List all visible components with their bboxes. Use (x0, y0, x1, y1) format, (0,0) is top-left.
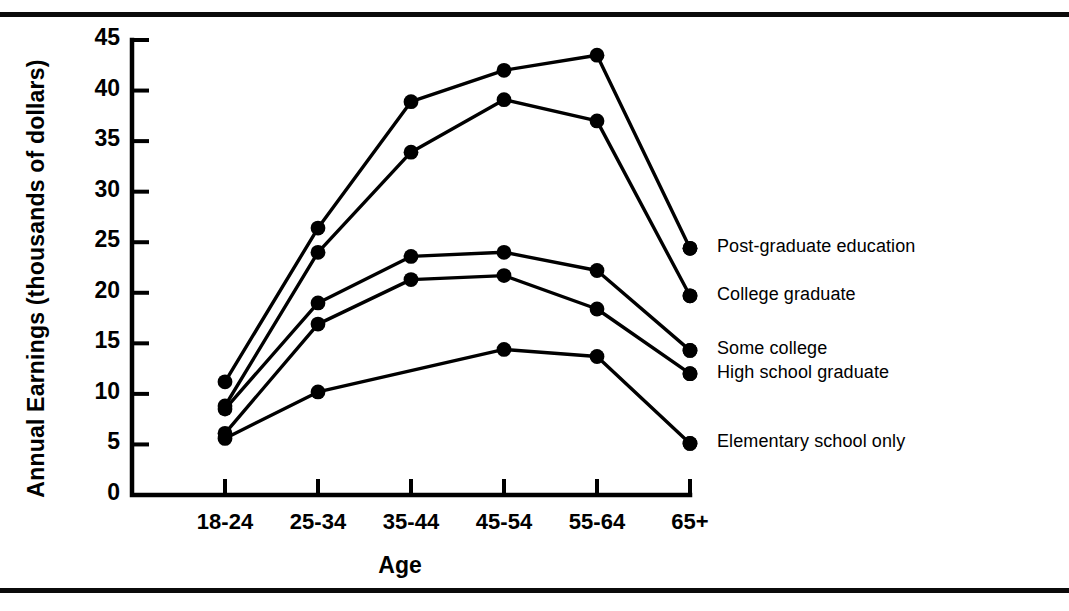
y-tick-label: 30 (36, 176, 120, 203)
series-label: College graduate (717, 284, 856, 305)
x-tick-label: 65+ (630, 509, 750, 535)
series-label: High school graduate (717, 362, 889, 383)
bottom-rule (0, 588, 1069, 593)
y-tick-label: 0 (36, 479, 120, 506)
plot-area: Annual Earnings (thousands of dollars) A… (0, 17, 1069, 588)
line-chart-svg (0, 17, 1069, 588)
x-axis-title: Age (330, 552, 470, 579)
series-label: Post-graduate education (717, 236, 915, 257)
data-series (218, 48, 698, 451)
leader-lines (683, 241, 698, 451)
series-label: Elementary school only (717, 431, 905, 452)
figure: Annual Earnings (thousands of dollars) A… (0, 0, 1069, 611)
y-tick-label: 10 (36, 378, 120, 405)
y-tick-label: 45 (36, 24, 120, 51)
y-tick-label: 20 (36, 277, 120, 304)
y-tick-label: 35 (36, 125, 120, 152)
series-label: Some college (717, 338, 827, 359)
y-tick-label: 15 (36, 327, 120, 354)
y-tick-label: 40 (36, 75, 120, 102)
y-tick-label: 5 (36, 428, 120, 455)
y-tick-label: 25 (36, 226, 120, 253)
